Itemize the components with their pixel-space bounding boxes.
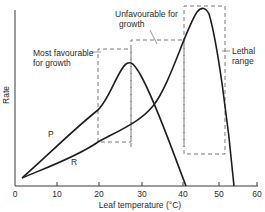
annotation-lethal: Lethal range	[222, 46, 255, 66]
tick-label: 10	[52, 189, 62, 199]
curve-r	[22, 8, 234, 186]
tick-label: 20	[94, 189, 104, 199]
tick-label: 30	[137, 189, 147, 199]
temperature-rate-chart: 0 10 20 30 40 50 60 Leaf temperature (°C…	[0, 0, 265, 212]
svg-text:range: range	[232, 56, 254, 66]
svg-text:Unfavourable for: Unfavourable for	[115, 9, 178, 19]
annotation-unfavourable: Unfavourable for growth	[115, 9, 178, 44]
svg-text:for growth: for growth	[33, 58, 71, 68]
most-favourable-region	[98, 49, 131, 142]
lethal-region	[184, 6, 225, 154]
svg-text:Most favourable: Most favourable	[33, 48, 94, 58]
unfavourable-region	[131, 40, 184, 147]
tick-label: 50	[214, 189, 224, 199]
series-label-r: R	[71, 157, 77, 167]
tick-label: 60	[252, 189, 262, 199]
x-tick-labels: 0 10 20 30 40 50 60	[13, 189, 262, 199]
svg-text:growth: growth	[119, 19, 145, 29]
svg-text:Lethal: Lethal	[232, 46, 255, 56]
x-ticks	[57, 182, 257, 186]
annotation-most-favourable: Most favourable for growth	[33, 48, 101, 68]
tick-label: 40	[178, 189, 188, 199]
y-axis-label: Rate	[1, 86, 11, 104]
x-axis-label: Leaf temperature (°C)	[99, 200, 181, 210]
series-label-p: P	[48, 129, 54, 139]
tick-label: 0	[13, 189, 18, 199]
